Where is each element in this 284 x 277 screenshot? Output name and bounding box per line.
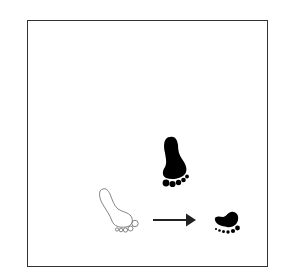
diagram-canvas (0, 0, 284, 277)
right-arrow-icon (153, 214, 196, 227)
small-black-footprint-icon (215, 212, 240, 234)
outline-footprint-icon (100, 189, 139, 232)
large-black-footprint-icon (163, 137, 189, 187)
